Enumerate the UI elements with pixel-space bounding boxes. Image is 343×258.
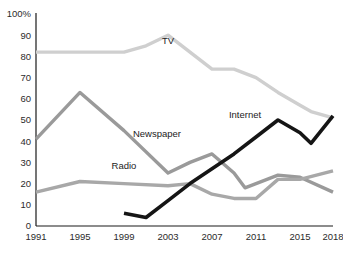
y-tick-60: 60	[20, 93, 31, 104]
y-axis-tick-labels: 0102030405060708090100%	[7, 8, 32, 231]
x-tick-1999: 1999	[113, 231, 134, 242]
series-label-internet: Internet	[229, 109, 262, 120]
series-line-tv	[36, 35, 333, 118]
line-chart: 0102030405060708090100% 1991199519992003…	[0, 0, 343, 258]
y-tick-50: 50	[20, 114, 31, 125]
series-lines	[36, 35, 333, 217]
x-tick-1991: 1991	[25, 231, 46, 242]
series-label-tv: TV	[162, 35, 175, 46]
series-label-newspaper: Newspaper	[133, 128, 181, 139]
chart-plot-area: 0102030405060708090100% 1991199519992003…	[0, 0, 343, 258]
x-tick-2018: 2018	[322, 231, 343, 242]
series-label-radio: Radio	[112, 160, 137, 171]
y-tick-40: 40	[20, 136, 31, 147]
x-tick-2011: 2011	[246, 231, 266, 242]
y-tick-30: 30	[20, 157, 31, 168]
x-tick-2015: 2015	[289, 231, 310, 242]
x-axis-tick-labels: 19911995199920032007201120152018	[25, 231, 343, 242]
series-line-newspaper	[36, 92, 333, 192]
y-tick-0: 0	[26, 220, 31, 231]
x-tick-2003: 2003	[157, 231, 178, 242]
y-tick-80: 80	[20, 51, 31, 62]
x-tick-2007: 2007	[201, 231, 222, 242]
y-tick-100%: 100%	[7, 8, 32, 19]
y-tick-90: 90	[20, 30, 31, 41]
y-tick-20: 20	[20, 178, 31, 189]
y-tick-70: 70	[20, 72, 31, 83]
x-tick-1995: 1995	[69, 231, 90, 242]
y-tick-10: 10	[20, 199, 31, 210]
